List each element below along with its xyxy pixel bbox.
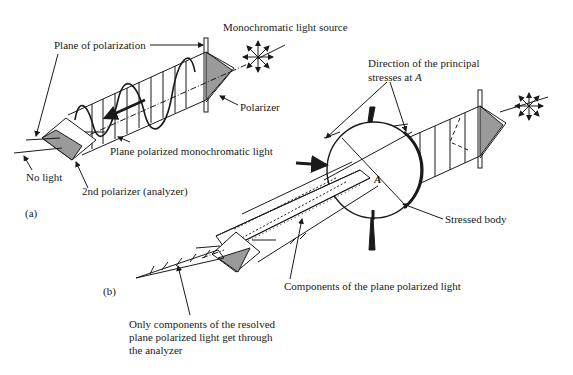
label-part-a: (a) [25,207,37,219]
label-stressed-body: Stressed body [445,213,506,225]
label-resolved-2: plane polarized light get through [129,331,273,343]
photoelasticity-diagram: Monochromatic light source Plane of pola… [0,0,573,375]
label-resolved-1: Only components of the resolved [129,318,275,330]
label-resolved-3: the analyzer [129,344,182,356]
light-source-icon-a [243,41,285,72]
label-principal-stresses-1: Direction of the principal [368,57,480,69]
label-plane-polarized-light: Plane polarized monochromatic light [110,145,273,157]
label-plane-of-polarization: Plane of polarization [54,39,146,51]
label-components: Components of the plane polarized light [284,280,461,292]
label-principal-stresses-2: stresses at A [368,71,422,83]
label-point-a: A [374,173,381,185]
label-no-light: No light [26,171,62,183]
light-source-icon-b [500,93,548,120]
label-analyzer: 2nd polarizer (analyzer) [82,185,188,197]
label-part-b: (b) [103,285,116,297]
polarizer-b [478,90,506,168]
label-polarizer: Polarizer [240,101,280,113]
sine-wave-a [75,58,195,136]
label-light-source: Monochromatic light source [223,21,348,33]
